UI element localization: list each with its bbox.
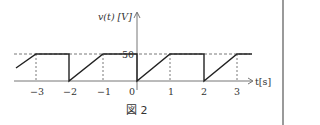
page-border xyxy=(282,0,284,125)
x-tick: −2 xyxy=(63,86,77,97)
y-axis-label: v(t) [V] xyxy=(98,11,132,22)
y-tick-50: 50 xyxy=(122,49,134,60)
x-tick: 0 xyxy=(129,86,135,97)
x-axis-label: t[s] xyxy=(255,76,271,87)
x-tick: 3 xyxy=(234,86,240,97)
x-tick: −1 xyxy=(97,86,111,97)
x-tick: 1 xyxy=(168,86,174,97)
x-tick: 2 xyxy=(201,86,207,97)
x-tick: −3 xyxy=(30,86,44,97)
figure-caption: 図 2 xyxy=(126,101,148,117)
